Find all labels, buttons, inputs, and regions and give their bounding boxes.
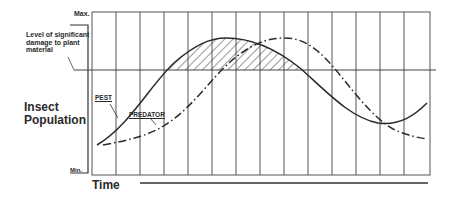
population-diagram: [0, 0, 453, 200]
pest-label-leader: [110, 104, 118, 118]
max-label: Max.: [74, 10, 90, 17]
grid: [92, 12, 430, 175]
predator-label-leader: [150, 118, 156, 125]
hatched-damage-region: [97, 38, 427, 145]
y-axis-label: Insect Population: [24, 101, 84, 127]
min-label: Min.: [70, 167, 82, 173]
x-axis-label: Time: [92, 179, 120, 191]
damage-threshold-label: Level of significant damage to plant mat…: [26, 31, 96, 54]
damage-label-leader: [68, 57, 74, 70]
predator-label: PREDATOR: [129, 112, 165, 119]
pest-label: PEST: [95, 95, 112, 102]
